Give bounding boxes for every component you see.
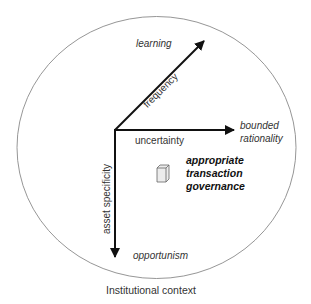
bounded-rationality-label-line1: bounded xyxy=(240,120,279,131)
governance-label: appropriate transaction governance xyxy=(186,154,245,193)
uncertainty-label: uncertainty xyxy=(135,135,184,146)
governance-label-line1: appropriate xyxy=(186,154,245,167)
institutional-context-ellipse xyxy=(17,17,296,279)
institutional-context-label: Institutional context xyxy=(106,285,196,296)
bounded-rationality-label-line2: rationality xyxy=(240,133,283,144)
opportunism-label: opportunism xyxy=(133,250,188,261)
learning-label: learning xyxy=(136,38,172,49)
governance-label-line3: governance xyxy=(186,180,245,193)
cube-icon xyxy=(157,165,169,182)
governance-label-line2: transaction xyxy=(186,167,245,180)
asset-specificity-label: asset specificity xyxy=(101,164,112,234)
